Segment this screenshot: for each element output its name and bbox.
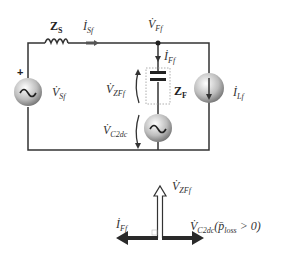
vc2dc-arrow-icon	[136, 115, 139, 146]
capacitor-plate-top	[150, 71, 166, 74]
node-dot	[156, 41, 161, 46]
vff-label: V̇Ff	[148, 17, 164, 33]
ilf-label: İLf	[232, 85, 245, 101]
right-angle-mark	[152, 230, 157, 235]
vzff-label: V̇ZFf	[106, 82, 127, 98]
isf-arrowhead-icon	[94, 40, 99, 46]
iff-phasor-arrow	[116, 231, 158, 245]
polarity-plus: +	[17, 66, 23, 78]
phasor-diagram: V̇ZFf İFf V̇C2dc(p̄loss > 0)	[115, 179, 261, 245]
phasor-vc2dc-label: V̇C2dc(p̄loss > 0)	[190, 219, 261, 235]
vzff-arrow-icon	[136, 72, 139, 103]
capacitor-plate-bottom	[150, 78, 166, 81]
circuit-diagram: ZS İSf V̇Ff İFf ZF V̇ZFf V̇C2dc + V̇Sf İ…	[0, 0, 292, 270]
phasor-iff-label: İFf	[115, 217, 129, 233]
zf-label: ZF	[174, 84, 187, 100]
iff-arrow-icon	[155, 56, 161, 62]
vzff-arrowhead-icon	[135, 69, 141, 75]
zs-label: ZS	[50, 19, 63, 35]
inductor-zs	[45, 39, 68, 43]
vc2dc-arrowhead-icon	[135, 143, 141, 149]
iff-label: İFf	[163, 49, 177, 65]
vsf-label: V̇Sf	[52, 85, 67, 101]
vc2dc-label: V̇C2dc	[103, 123, 128, 139]
isf-label: İSf	[82, 19, 95, 35]
phasor-vzff-label: V̇ZFf	[172, 179, 193, 195]
